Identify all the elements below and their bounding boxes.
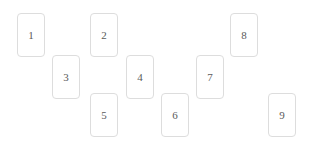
card-label: 8 [241, 30, 247, 41]
card-item[interactable]: 7 [196, 55, 224, 99]
card-label: 6 [172, 110, 178, 121]
card-label: 9 [279, 110, 285, 121]
card-label: 4 [137, 72, 143, 83]
card-label: 2 [101, 30, 107, 41]
card-item[interactable]: 1 [17, 13, 45, 57]
card-label: 1 [28, 30, 34, 41]
card-label: 3 [63, 72, 69, 83]
card-layout-canvas: 1 2 3 4 5 6 7 8 9 [0, 0, 312, 146]
card-item[interactable]: 5 [90, 93, 118, 137]
card-item[interactable]: 6 [161, 93, 189, 137]
card-item[interactable]: 2 [90, 13, 118, 57]
card-item[interactable]: 8 [230, 13, 258, 57]
card-item[interactable]: 3 [52, 55, 80, 99]
card-item[interactable]: 9 [268, 93, 296, 137]
card-item[interactable]: 4 [126, 55, 154, 99]
card-label: 7 [207, 72, 213, 83]
card-label: 5 [101, 110, 107, 121]
